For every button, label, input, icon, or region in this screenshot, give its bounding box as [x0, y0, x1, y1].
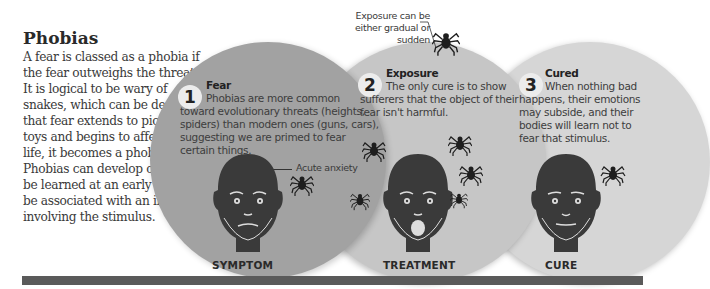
- article-title: Phobias: [23, 28, 208, 48]
- step-3-first-line: When nothing bad: [545, 80, 637, 92]
- spider-icon: [450, 190, 468, 210]
- step-1-body: toward evolutionary threats (heights, sp…: [180, 105, 380, 157]
- symptom-label: SYMPTOM: [212, 259, 273, 271]
- spider-icon: [448, 132, 472, 158]
- treatment-label: TREATMENT: [383, 259, 455, 271]
- step-3-body: happens, their emotions may subside, and…: [519, 93, 649, 145]
- step-2-body: sufferers that the object of their fear …: [360, 93, 540, 119]
- bottom-divider-bar: [22, 276, 643, 285]
- exposure-annotation: Exposure can be either gradual or sudden: [330, 10, 430, 46]
- cure-label: CURE: [545, 259, 577, 271]
- spider-icon: [459, 162, 483, 188]
- spider-icon: [600, 162, 626, 188]
- head-icon: [528, 152, 604, 252]
- head-icon: [210, 152, 286, 252]
- step-3-title: Cured: [545, 67, 579, 79]
- step-1-title: Fear: [206, 79, 231, 91]
- spider-icon: [432, 28, 460, 58]
- step-1-first-line: Phobias are more common: [206, 92, 340, 104]
- spider-icon: [290, 172, 314, 198]
- head-icon: [380, 152, 456, 252]
- spider-icon: [350, 190, 370, 212]
- step-1-text: FearPhobias are more common toward evolu…: [180, 79, 380, 157]
- step-2-title: Exposure: [386, 67, 438, 79]
- step-2-first-line: The only cure is to show: [386, 80, 506, 92]
- step-3-text: CuredWhen nothing bad happens, their emo…: [519, 67, 659, 145]
- spider-icon: [362, 138, 386, 164]
- step-2-text: ExposureThe only cure is to show suffere…: [360, 67, 540, 119]
